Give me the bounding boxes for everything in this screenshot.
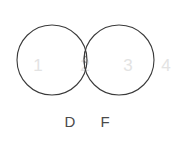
venn-diagram-container: 1 2 3 4 D F <box>0 0 178 142</box>
region-label-outside: 4 <box>161 56 170 75</box>
set-label-d: D <box>65 113 76 130</box>
set-label-f: F <box>100 113 109 130</box>
venn-diagram-canvas: 1 2 3 4 D F <box>0 0 178 142</box>
region-label-right-only: 3 <box>123 56 132 75</box>
region-label-left-only: 1 <box>33 56 42 75</box>
